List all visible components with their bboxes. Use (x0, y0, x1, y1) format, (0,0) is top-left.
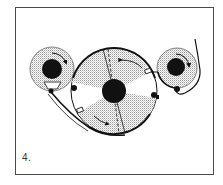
left-reel (30, 47, 74, 94)
threading-diagram (0, 0, 223, 185)
center-drum (71, 48, 159, 134)
step-label: 4. (22, 152, 31, 163)
right-reel (157, 39, 200, 94)
